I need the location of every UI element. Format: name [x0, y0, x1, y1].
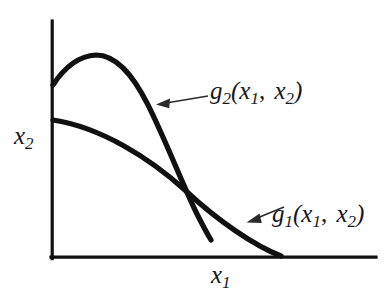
g2-label-arg1-subscript: 1	[250, 89, 259, 108]
g1-label-comma: ,	[321, 200, 330, 227]
y-axis-label-base: x	[14, 122, 25, 149]
g1-label-arg1-subscript: 1	[312, 212, 321, 231]
g1-label-close-paren: )	[356, 200, 364, 227]
g1-label-base: g	[272, 200, 285, 227]
g2-leader-arrowhead	[156, 99, 170, 109]
x-axis-label-base: x	[211, 261, 222, 288]
curve-label-g1: g1(x1, x2)	[272, 201, 364, 230]
g2-label-comma: ,	[259, 77, 268, 104]
x-axis-label: x1	[211, 262, 231, 291]
g2-label-arg1-base: x	[239, 77, 250, 104]
g2-label-base: g	[210, 77, 223, 104]
y-axis-label: x2	[14, 123, 34, 152]
g2-label-subscript: 2	[223, 89, 232, 108]
g2-label-close-paren: )	[294, 77, 302, 104]
g1-label-arg2-subscript: 2	[348, 212, 357, 231]
figure-canvas: g2(x1, x2) g1(x1, x2) x2 x1	[0, 0, 391, 301]
g2-label-arg2-base: x	[274, 77, 285, 104]
g1-label-arg2-base: x	[336, 200, 347, 227]
figure-svg	[0, 0, 391, 301]
x-axis-label-subscript: 1	[222, 273, 231, 292]
g1-label-arg1-base: x	[301, 200, 312, 227]
g1-leader-arrowhead	[247, 214, 262, 223]
g2-label-arg2-subscript: 2	[286, 89, 295, 108]
curve-label-g2: g2(x1, x2)	[210, 78, 302, 107]
curve-g2	[53, 55, 211, 240]
g2-leader-line	[166, 96, 208, 103]
g1-label-subscript: 1	[285, 212, 294, 231]
y-axis-label-subscript: 2	[25, 134, 34, 153]
g2-leader-group	[156, 96, 208, 108]
